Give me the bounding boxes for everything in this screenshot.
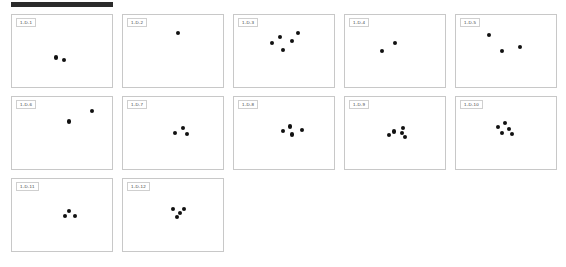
- scatter-dot: [387, 133, 391, 137]
- stimulus-panel: 1-D-7: [122, 96, 224, 170]
- scatter-dot: [300, 128, 304, 132]
- scatter-dot: [171, 207, 175, 211]
- stimulus-panel: 1-D-11: [11, 178, 113, 252]
- stimulus-panel: 1-D-1: [11, 14, 113, 88]
- scatter-dot: [500, 131, 504, 135]
- scatter-dot: [380, 49, 384, 53]
- scatter-dot: [288, 124, 292, 128]
- header-rule: [11, 2, 113, 7]
- scatter-dot: [290, 132, 294, 136]
- scatter-dot: [401, 126, 405, 130]
- scatter-dot: [270, 41, 274, 45]
- scatter-dot: [487, 33, 491, 37]
- panel-label: 1-D-9: [349, 100, 369, 109]
- scatter-dot: [278, 35, 282, 39]
- scatter-dot: [63, 214, 67, 218]
- scatter-dot: [496, 125, 500, 129]
- stimulus-panel: 1-D-10: [455, 96, 557, 170]
- panel-label: 1-D-10: [460, 100, 483, 109]
- document-page: 1-D-11-D-21-D-31-D-41-D-51-D-61-D-71-D-8…: [0, 0, 566, 267]
- scatter-dot: [176, 31, 180, 35]
- panel-label: 1-D-3: [238, 18, 258, 27]
- scatter-dot: [518, 45, 522, 49]
- scatter-dot: [510, 132, 514, 136]
- scatter-dot: [73, 214, 77, 218]
- scatter-dot: [67, 209, 71, 213]
- scatter-dot: [500, 49, 504, 53]
- stimulus-panel: 1-D-4: [344, 14, 446, 88]
- panel-label: 1-D-6: [16, 100, 36, 109]
- scatter-dot: [182, 207, 186, 211]
- scatter-dot: [281, 48, 285, 52]
- stimulus-panel: 1-D-5: [455, 14, 557, 88]
- scatter-dot: [178, 211, 182, 215]
- panel-label: 1-D-12: [127, 182, 150, 191]
- stimulus-panel: 1-D-8: [233, 96, 335, 170]
- scatter-dot: [173, 131, 177, 135]
- scatter-dot: [54, 55, 58, 59]
- scatter-dot: [393, 41, 397, 45]
- panel-label: 1-D-11: [16, 182, 39, 191]
- stimulus-panel: 1-D-3: [233, 14, 335, 88]
- panel-label: 1-D-4: [349, 18, 369, 27]
- scatter-dot: [290, 39, 294, 43]
- scatter-dot: [296, 31, 300, 35]
- scatter-dot: [503, 121, 507, 125]
- panel-label: 1-D-2: [127, 18, 147, 27]
- stimulus-panel: 1-D-6: [11, 96, 113, 170]
- scatter-dot: [175, 215, 179, 219]
- scatter-dot: [403, 135, 407, 139]
- scatter-dot: [181, 126, 185, 130]
- panel-grid: 1-D-11-D-21-D-31-D-41-D-51-D-61-D-71-D-8…: [11, 14, 563, 264]
- scatter-dot: [392, 129, 396, 133]
- scatter-dot: [185, 132, 189, 136]
- panel-label: 1-D-8: [238, 100, 258, 109]
- scatter-dot: [67, 119, 71, 123]
- stimulus-panel: 1-D-9: [344, 96, 446, 170]
- stimulus-panel: 1-D-2: [122, 14, 224, 88]
- panel-label: 1-D-5: [460, 18, 480, 27]
- scatter-dot: [281, 129, 285, 133]
- scatter-dot: [90, 109, 94, 113]
- scatter-dot: [507, 127, 511, 131]
- stimulus-panel: 1-D-12: [122, 178, 224, 252]
- scatter-dot: [62, 58, 66, 62]
- panel-label: 1-D-7: [127, 100, 147, 109]
- panel-label: 1-D-1: [16, 18, 36, 27]
